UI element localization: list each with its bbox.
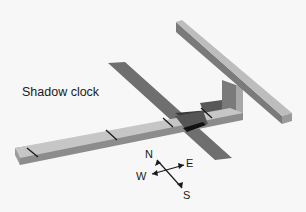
diagram-title: Shadow clock [22, 85, 99, 99]
shadow-clock-diagram: N E W S Shadow clock [0, 0, 306, 212]
compass-west: W [136, 170, 147, 182]
compass-north: N [145, 148, 153, 160]
shadow-clock-illustration: N E W S [0, 0, 306, 212]
compass-rose [152, 160, 184, 188]
compass-south: S [183, 189, 190, 201]
compass-east: E [186, 157, 193, 169]
